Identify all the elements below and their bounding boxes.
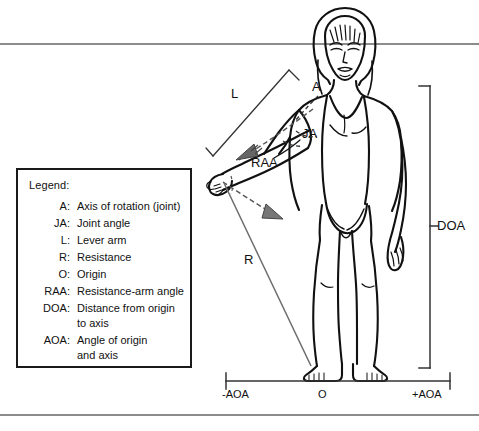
legend-entry-description: Joint angle: [77, 216, 130, 231]
legend-entry-description: Axis of rotation (joint): [77, 199, 180, 214]
legend-entry-description-line2: to axis: [77, 316, 175, 331]
doa-bracket: [419, 86, 438, 368]
legend-entry-description-line1: Resistance: [77, 251, 131, 263]
legend-entry-abbr: L:: [18, 233, 70, 248]
legend-entry-description-line1: Distance from origin: [77, 302, 175, 314]
legend-entry: O:Origin: [18, 267, 190, 282]
legend-entry-abbr: A:: [18, 199, 70, 214]
legend-entry-abbr: O:: [18, 267, 70, 282]
legend-entry-description: Resistance-arm angle: [77, 284, 184, 299]
label-positive-aoa: +AOA: [412, 388, 442, 400]
legend-entry: DOA:Distance from originto axis: [18, 301, 190, 331]
legend-entry-abbr: JA:: [18, 216, 70, 231]
legend-entry-description: Lever arm: [77, 233, 127, 248]
legend-entry-abbr: RAA:: [18, 284, 70, 299]
legend-entry: R:Resistance: [18, 250, 190, 265]
legend-entry-description-line1: Lever arm: [77, 234, 127, 246]
label-joint-angle: JA: [302, 126, 317, 141]
legend-entry-description-line1: Joint angle: [77, 217, 130, 229]
legend-entry-abbr: DOA:: [18, 301, 70, 316]
figure-canvas: L A JA RAA R DOA -AOA O +AOA Legend: A:A…: [0, 0, 479, 431]
legend-entry-description: Distance from originto axis: [77, 301, 175, 331]
legend-entry: AOA:Angle of originand axis: [18, 333, 190, 363]
legend-entry-description-line1: Axis of rotation (joint): [77, 200, 180, 212]
legend-entry-description-line2: and axis: [77, 348, 147, 363]
legend-entry-list: A:Axis of rotation (joint)JA:Joint angle…: [18, 199, 190, 365]
label-resistance: R: [244, 252, 253, 267]
label-distance-origin-axis: DOA: [437, 218, 465, 233]
label-lever-arm: L: [231, 86, 238, 101]
legend-entry: JA:Joint angle: [18, 216, 190, 231]
legend-entry-abbr: AOA:: [18, 333, 70, 348]
legend-box: Legend: A:Axis of rotation (joint)JA:Joi…: [16, 168, 192, 368]
legend-entry-description: Angle of originand axis: [77, 333, 147, 363]
legend-entry: RAA:Resistance-arm angle: [18, 284, 190, 299]
label-axis: A: [312, 79, 321, 94]
legend-entry-description-line1: Resistance-arm angle: [77, 285, 184, 297]
label-origin: O: [318, 388, 327, 400]
legend-entry-description-line1: Origin: [77, 268, 106, 280]
legend-entry-description: Resistance: [77, 250, 131, 265]
legend-entry: A:Axis of rotation (joint): [18, 199, 190, 214]
legend-entry-description-line1: Angle of origin: [77, 334, 147, 346]
legend-entry-abbr: R:: [18, 250, 70, 265]
label-negative-aoa: -AOA: [222, 388, 249, 400]
legend-entry-description: Origin: [77, 267, 106, 282]
label-resistance-arm-angle: RAA: [251, 155, 278, 170]
resistance-arm-angle-arrow: [223, 176, 283, 219]
legend-entry: L:Lever arm: [18, 233, 190, 248]
legend-title: Legend:: [29, 179, 69, 191]
aoa-axis: [226, 373, 450, 389]
